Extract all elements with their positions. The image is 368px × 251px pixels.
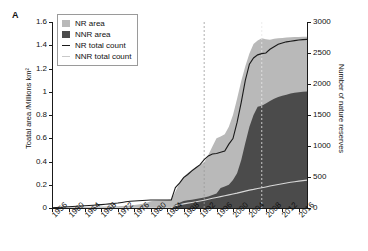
legend-line-icon	[62, 45, 70, 46]
y-axis-left-tick	[49, 45, 52, 46]
legend-item: NNR area	[62, 29, 131, 40]
y-axis-right-tick-label: 1500	[313, 110, 347, 119]
legend-item-label: NNR total count	[75, 51, 131, 62]
y-axis-left-tick-label: 0.4	[17, 157, 47, 166]
y-axis-left-tick	[49, 115, 52, 116]
y-axis-right-tick-label: 2500	[313, 48, 347, 57]
y-axis-right-tick	[308, 115, 311, 116]
legend-item-label: NR area	[75, 18, 105, 29]
y-axis-right-tick-label: 3000	[313, 17, 347, 26]
y-axis-left-tick-label: 1.6	[17, 17, 47, 26]
y-axis-right-tick	[308, 22, 311, 23]
y-axis-left-tick	[49, 92, 52, 93]
y-axis-right-tick	[308, 146, 311, 147]
legend-item: NR total count	[62, 40, 131, 51]
chart-figure: A Toatal area /Millions km² Number of na…	[0, 0, 368, 251]
legend-item: NR area	[62, 18, 131, 29]
y-axis-right-tick	[308, 177, 311, 178]
y-axis-left-tick	[49, 22, 52, 23]
y-axis-left-tick-label: 0.6	[17, 133, 47, 142]
legend-item-label: NR total count	[75, 40, 126, 51]
y-axis-left-tick	[49, 162, 52, 163]
y-axis-left-tick-label: 0.8	[17, 110, 47, 119]
chart-legend: NR areaNNR areaNR total countNNR total c…	[57, 14, 138, 66]
y-axis-left-tick-label: 1.2	[17, 64, 47, 73]
y-axis-left-line	[52, 22, 53, 209]
y-axis-left-tick-label: 0	[17, 203, 47, 212]
y-axis-left-tick	[49, 69, 52, 70]
legend-swatch-icon	[62, 31, 70, 38]
legend-swatch-icon	[62, 20, 70, 27]
y-axis-right-tick-label: 2000	[313, 79, 347, 88]
legend-line-icon	[62, 56, 70, 57]
y-axis-right-tick	[308, 53, 311, 54]
y-axis-left-tick-label: 1	[17, 87, 47, 96]
y-axis-right-tick-label: 500	[313, 172, 347, 181]
y-axis-left-tick-label: 1.4	[17, 40, 47, 49]
y-axis-left-tick	[49, 138, 52, 139]
y-axis-right-tick-label: 1000	[313, 141, 347, 150]
y-axis-right-tick	[308, 84, 311, 85]
legend-item: NNR total count	[62, 51, 131, 62]
y-axis-left-tick	[49, 185, 52, 186]
y-axis-right-tick-label: 0	[313, 203, 347, 212]
legend-item-label: NNR area	[75, 29, 111, 40]
y-axis-left-tick-label: 0.2	[17, 180, 47, 189]
